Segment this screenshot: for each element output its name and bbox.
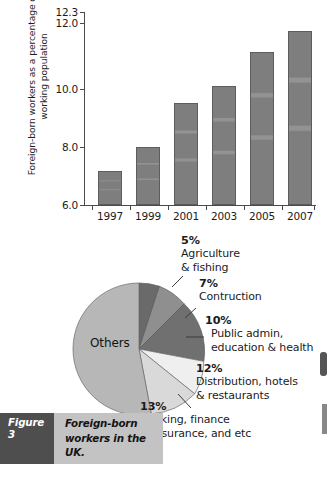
pie-callout-line1: Contruction <box>199 290 262 303</box>
y-axis-tick <box>80 205 85 206</box>
bar-2007 <box>288 31 312 205</box>
pie-callout-percent: 10% <box>205 314 231 327</box>
pie-callout-percent: 7% <box>199 277 218 290</box>
bar-2005 <box>250 52 274 205</box>
bar-chart: Foreign-born workers as a percentage of … <box>0 0 327 232</box>
y-tick-label: 8.0 <box>44 142 78 153</box>
figure-page: Foreign-born workers as a percentage of … <box>0 0 327 481</box>
y-axis-tick <box>80 147 85 148</box>
pie-callout-distribution: 12% Distribution, hotels & restaurants <box>196 362 298 402</box>
pie-center-label: Others <box>90 336 130 350</box>
pie-callout-line1: Agriculture <box>181 247 240 260</box>
bar-2003 <box>212 86 236 205</box>
y-axis-tick <box>80 23 85 24</box>
y-axis-tick <box>80 12 85 13</box>
pie-callout-percent: 12% <box>196 362 222 375</box>
bar-2001 <box>174 103 198 205</box>
figure-caption-tag: Figure 3 <box>0 413 54 464</box>
pie-callout-percent: 13% <box>140 400 166 413</box>
x-tick-label-2007: 2007 <box>278 210 322 222</box>
y-tick-label: 12.0 <box>44 18 78 29</box>
pie-callout-line1: Public admin, <box>211 327 283 340</box>
page-edge-mark <box>322 404 327 434</box>
figure-caption: Figure 3 Foreign-born workers in the UK. <box>0 413 163 464</box>
pie-callout-percent: 5% <box>181 234 200 247</box>
bar-chart-plot-area: 1997 1999 2001 2003 2005 2007 <box>84 12 316 206</box>
figure-caption-text: Foreign-born workers in the UK. <box>54 413 163 464</box>
pie-callout-public-admin: 10% Public admin, education & health <box>205 314 313 354</box>
y-tick-label: 6.0 <box>44 200 78 211</box>
y-axis-tick-labels: 12.3 12.0 10.0 8.0 6.0 <box>44 0 78 215</box>
pie-callout-line1: Distribution, hotels <box>196 375 298 388</box>
bar-1997 <box>98 171 122 205</box>
pie-callout-agriculture: 5% Agriculture & fishing <box>181 234 240 274</box>
pie-callout-construction: 7% Contruction <box>199 277 262 304</box>
bar-1999 <box>136 147 160 205</box>
pie-callout-line2: & fishing <box>181 261 228 274</box>
y-axis-line <box>84 12 85 206</box>
page-edge-mark <box>320 352 327 376</box>
y-tick-label: 10.0 <box>44 84 78 95</box>
y-axis-tick <box>80 89 85 90</box>
pie-callout-line2: education & health <box>211 341 313 354</box>
